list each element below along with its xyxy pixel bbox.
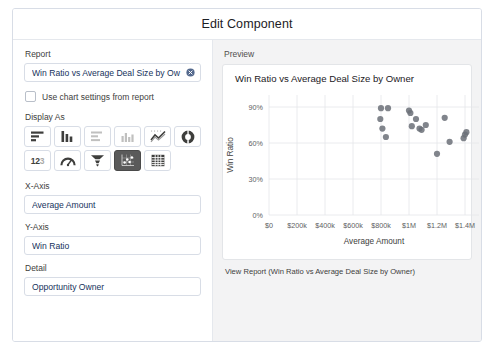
scatter-point[interactable] <box>409 123 415 129</box>
horizontal-bar-chart-icon <box>30 130 45 143</box>
y-axis-tick-label: 30% <box>249 175 264 184</box>
scatter-point[interactable] <box>442 115 448 121</box>
x-axis-label: X-Axis <box>25 181 201 192</box>
use-chart-settings-checkbox[interactable] <box>25 91 36 102</box>
edit-component-modal: Edit Component Report Win Ratio vs Avera… <box>12 8 482 342</box>
chart-type-scatter-chart[interactable] <box>114 150 141 171</box>
scatter-point[interactable] <box>385 105 391 111</box>
chart-type-metric-number[interactable]: 123 <box>24 150 51 171</box>
vertical-bar-chart-icon <box>60 130 75 143</box>
use-chart-settings-row[interactable]: Use chart settings from report <box>25 91 201 102</box>
donut-chart-icon <box>181 130 195 144</box>
chart-type-table-chart[interactable] <box>144 150 171 171</box>
chart-type-donut-chart[interactable] <box>174 126 201 147</box>
chart-card: Win Ratio vs Average Deal Size by Owner … <box>222 64 472 260</box>
clear-circle-icon[interactable] <box>186 68 195 77</box>
stacked-horizontal-bar-chart-icon <box>90 130 105 143</box>
settings-pane: Report Win Ratio vs Average Deal Size by… <box>13 40 213 342</box>
chart-title: Win Ratio vs Average Deal Size by Owner <box>235 73 463 84</box>
x-axis-tick-label: $1.4M <box>455 221 475 230</box>
y-axis-title: Win Ratio <box>226 137 235 173</box>
preview-pane: Preview Win Ratio vs Average Deal Size b… <box>213 40 481 342</box>
detail-field-block: Detail Opportunity Owner <box>24 263 201 296</box>
scatter-point[interactable] <box>447 139 453 145</box>
metric-number-icon: 123 <box>31 156 45 166</box>
x-axis-tick-label: $0 <box>265 221 273 230</box>
y-axis-label: Y-Axis <box>25 222 201 233</box>
x-axis-tick-label: $800k <box>371 221 391 230</box>
y-axis-tick-label: 0% <box>253 211 264 220</box>
x-axis-tick-label: $400k <box>315 221 335 230</box>
scatter-point[interactable] <box>413 116 419 122</box>
y-axis-tick-label: 60% <box>249 139 264 148</box>
chart-type-gauge-chart[interactable] <box>54 150 81 171</box>
scatter-point[interactable] <box>434 151 440 157</box>
scatter-point[interactable] <box>423 122 429 128</box>
use-chart-settings-label: Use chart settings from report <box>42 92 154 102</box>
line-chart-icon <box>150 130 166 143</box>
chart-plot-area: 0%30%60%90%$0$200k$400k$600k$800k$1M$1.2… <box>223 87 471 259</box>
detail-label: Detail <box>25 263 201 274</box>
x-axis-tick-label: $600k <box>343 221 363 230</box>
y-axis-input[interactable]: Win Ratio <box>24 236 201 255</box>
report-input[interactable]: Win Ratio vs Average Deal Size by Ow <box>24 63 201 82</box>
modal-body: Report Win Ratio vs Average Deal Size by… <box>13 40 481 342</box>
display-as-grid: 123 <box>24 126 201 171</box>
x-axis-title: Average Amount <box>344 237 405 246</box>
view-report-link[interactable]: View Report (Win Ratio vs Average Deal S… <box>225 267 472 276</box>
funnel-chart-icon <box>90 154 105 167</box>
gauge-chart-icon <box>60 155 76 167</box>
scatter-chart-icon <box>120 154 135 167</box>
scatter-point[interactable] <box>379 126 385 132</box>
scatter-plot: 0%30%60%90%$0$200k$400k$600k$800k$1M$1.2… <box>223 87 482 255</box>
chart-type-funnel-chart[interactable] <box>84 150 111 171</box>
chart-type-line-chart[interactable] <box>144 126 171 147</box>
x-axis-tick-label: $1.2M <box>427 221 447 230</box>
modal-header: Edit Component <box>13 9 481 40</box>
report-label: Report <box>25 49 201 60</box>
x-axis-tick-label: $200k <box>287 221 307 230</box>
detail-input[interactable]: Opportunity Owner <box>24 277 201 296</box>
chart-type-stacked-column-chart[interactable] <box>114 126 141 147</box>
chart-type-horizontal-bar-chart[interactable] <box>24 126 51 147</box>
preview-label: Preview <box>224 49 472 59</box>
table-chart-icon <box>151 154 165 167</box>
chart-type-stacked-horizontal-bar-chart[interactable] <box>84 126 111 147</box>
x-axis-input[interactable]: Average Amount <box>24 195 201 214</box>
x-axis-tick-label: $1M <box>402 221 416 230</box>
y-axis-field-block: Y-Axis Win Ratio <box>24 222 201 255</box>
y-axis-input-value: Win Ratio <box>32 241 195 251</box>
scatter-point[interactable] <box>378 105 384 111</box>
scatter-point[interactable] <box>383 134 389 140</box>
scatter-point[interactable] <box>377 116 383 122</box>
display-as-label: Display As <box>25 112 201 122</box>
chart-type-vertical-bar-chart[interactable] <box>54 126 81 147</box>
detail-input-value: Opportunity Owner <box>32 282 195 292</box>
page-title: Edit Component <box>201 17 292 31</box>
stacked-column-chart-icon <box>120 130 135 143</box>
scatter-point[interactable] <box>407 110 413 116</box>
scatter-point[interactable] <box>463 129 469 135</box>
report-field-block: Report Win Ratio vs Average Deal Size by… <box>24 49 201 82</box>
report-input-value: Win Ratio vs Average Deal Size by Ow <box>32 68 186 78</box>
y-axis-tick-label: 90% <box>249 103 264 112</box>
x-axis-input-value: Average Amount <box>32 200 195 210</box>
x-axis-field-block: X-Axis Average Amount <box>24 181 201 214</box>
scatter-point[interactable] <box>419 127 425 133</box>
